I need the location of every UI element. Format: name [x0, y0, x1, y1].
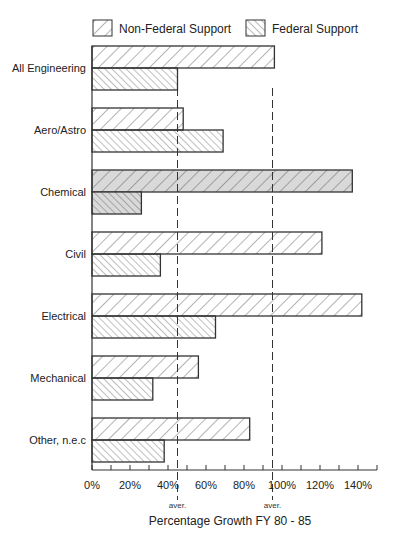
- bar-non-federal-support: [92, 294, 362, 316]
- category-label: All Engineering: [12, 62, 86, 74]
- category-label: Mechanical: [30, 372, 86, 384]
- growth-bar-chart: Non-Federal Support Federal Support All …: [0, 0, 395, 533]
- x-tick-label: 40%: [157, 479, 179, 491]
- legend-item-federal: Federal Support: [246, 20, 359, 36]
- x-axis-ticks: 0%20%40%60%80%100%120%140%: [84, 465, 377, 491]
- bar-federal-support: [92, 130, 223, 152]
- category-label: Other, n.e.c: [29, 434, 86, 446]
- x-tick-label: 100%: [268, 479, 296, 491]
- bar-non-federal-support: [92, 108, 183, 130]
- average-label: aver.: [169, 501, 186, 510]
- category-labels: All EngineeringAero/AstroChemicalCivilEl…: [12, 62, 86, 446]
- category-label: Aero/Astro: [34, 124, 86, 136]
- bar-non-federal-support: [92, 356, 198, 378]
- bar-federal-support: [92, 316, 216, 338]
- bar-federal-support: [92, 192, 141, 214]
- category-label: Civil: [65, 248, 86, 260]
- bar-federal-support: [92, 440, 164, 462]
- bar-federal-support: [92, 254, 160, 276]
- bar-federal-support: [92, 378, 153, 400]
- x-tick-label: 20%: [119, 479, 141, 491]
- x-tick-label: 80%: [233, 479, 255, 491]
- average-label: aver.: [264, 501, 281, 510]
- legend-label-non-federal: Non-Federal Support: [119, 22, 232, 36]
- bar-non-federal-support: [92, 46, 274, 68]
- bar-non-federal-support: [92, 418, 250, 440]
- legend-label-federal: Federal Support: [272, 22, 359, 36]
- x-tick-label: 140%: [344, 479, 372, 491]
- legend-item-non-federal: Non-Federal Support: [93, 20, 232, 36]
- federal-swatch-icon: [246, 20, 265, 36]
- x-tick-label: 0%: [84, 479, 100, 491]
- x-tick-label: 60%: [195, 479, 217, 491]
- bars-group: [92, 46, 362, 462]
- x-axis-title: Percentage Growth FY 80 - 85: [149, 514, 312, 528]
- bar-non-federal-support: [92, 170, 352, 192]
- category-label: Electrical: [41, 310, 86, 322]
- bar-federal-support: [92, 68, 178, 90]
- legend: Non-Federal Support Federal Support: [93, 20, 359, 36]
- non-federal-swatch-icon: [93, 20, 112, 36]
- x-tick-label: 120%: [306, 479, 334, 491]
- category-label: Chemical: [40, 186, 86, 198]
- bar-non-federal-support: [92, 232, 322, 254]
